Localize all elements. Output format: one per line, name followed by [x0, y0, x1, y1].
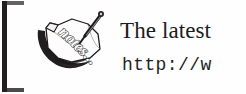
notes-sketch-icon: notes... [28, 4, 110, 76]
bracket-bottom-stub [7, 88, 24, 92]
left-bracket-rule [2, 1, 24, 92]
callout-heading: The latest [120, 17, 211, 45]
notes-callout: notes... The latest http://w [0, 0, 246, 94]
callout-text: The latest http://w [120, 0, 246, 94]
bracket-stem [2, 1, 7, 92]
callout-url[interactable]: http://w [122, 52, 212, 78]
bracket-top-stub [7, 1, 24, 5]
